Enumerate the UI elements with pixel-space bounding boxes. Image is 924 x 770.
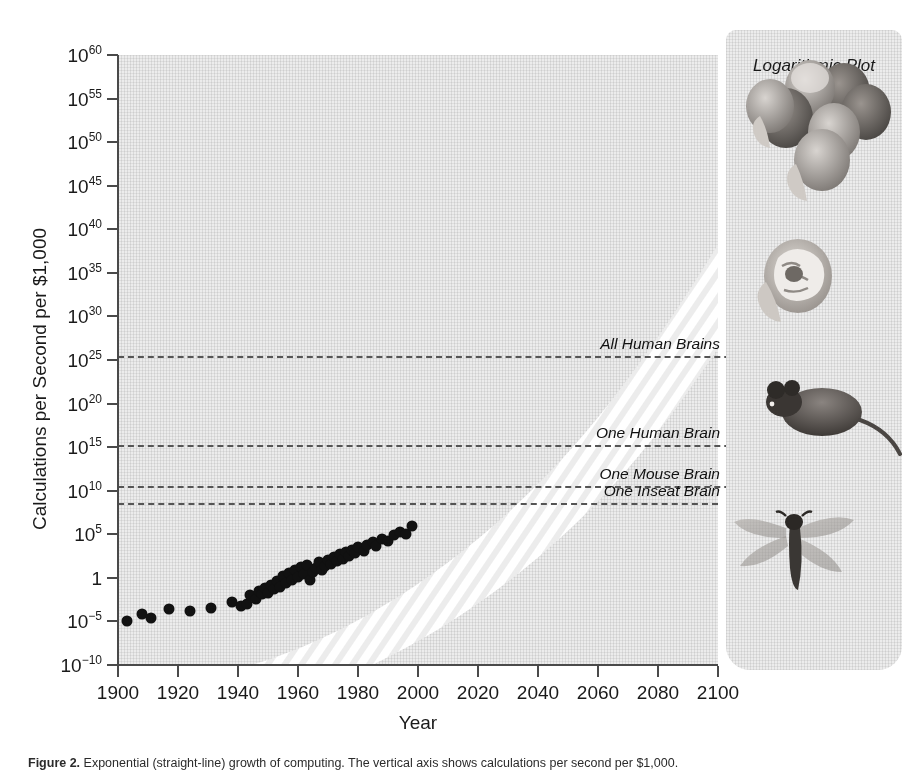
y-axis-ticks: 1060105510501045104010351030102510201015…	[0, 0, 118, 770]
threshold-line-one-human-brain	[118, 445, 770, 447]
human-heads-illustration	[746, 60, 891, 201]
y-axis-tick	[107, 446, 118, 448]
y-axis-tick	[107, 359, 118, 361]
threshold-label-all-human-brains: All Human Brains	[420, 335, 720, 353]
y-axis-tick	[107, 315, 118, 317]
y-axis-tick-label: 1	[91, 568, 102, 587]
figure-caption-label: Figure 2.	[28, 756, 80, 770]
y-axis-tick	[107, 577, 118, 579]
trend-band	[118, 55, 718, 665]
y-axis-tick-label: 1050	[68, 133, 103, 152]
y-axis-tick	[107, 185, 118, 187]
y-axis-tick-label: 105	[74, 525, 102, 544]
y-axis-tick	[107, 228, 118, 230]
y-axis-tick-label: 1020	[68, 394, 103, 413]
figure-caption-text: Exponential (straight-line) growth of co…	[84, 756, 679, 770]
x-axis-tick	[657, 666, 659, 677]
threshold-line-all-human-brains	[118, 356, 770, 358]
y-axis-tick-label: 1015	[68, 438, 103, 457]
x-axis-tick-label: 2060	[577, 682, 619, 704]
plot-area	[118, 55, 718, 665]
y-axis-tick-label: 1035	[68, 263, 103, 282]
y-axis-tick-label: 1045	[68, 176, 103, 195]
y-axis-tick-label: 10−5	[67, 612, 102, 631]
y-axis-tick-label: 1030	[68, 307, 103, 326]
x-axis-tick-label: 1980	[337, 682, 379, 704]
x-axis-tick-label: 2080	[637, 682, 679, 704]
x-axis-tick-label: 2020	[457, 682, 499, 704]
x-axis-tick-label: 2040	[517, 682, 559, 704]
mouse-illustration	[766, 380, 900, 454]
x-axis-title: Year	[0, 712, 836, 734]
dragonfly-illustration	[734, 512, 854, 591]
x-axis-tick-label: 2000	[397, 682, 439, 704]
x-axis-tick	[417, 666, 419, 677]
illustration-panel: Logarithmic Plot	[726, 30, 902, 670]
x-axis-tick	[117, 666, 119, 677]
y-axis-tick	[107, 272, 118, 274]
y-axis-tick	[107, 54, 118, 56]
x-axis-tick-label: 1900	[97, 682, 139, 704]
x-axis-tick-label: 1920	[157, 682, 199, 704]
y-axis-tick-label: 1060	[68, 46, 103, 65]
x-axis-tick	[477, 666, 479, 677]
y-axis-title: Calculations per Second per $1,000	[29, 129, 51, 629]
threshold-label-one-insect-brain: One Inseat Brain	[420, 482, 720, 500]
x-axis-tick-label: 1940	[217, 682, 259, 704]
x-axis-tick	[597, 666, 599, 677]
y-axis-tick-label: 10−10	[61, 656, 103, 675]
illustration-group	[726, 30, 902, 670]
x-axis-tick	[717, 666, 719, 677]
x-axis-tick	[297, 666, 299, 677]
y-axis-tick	[107, 490, 118, 492]
x-axis-tick-label: 1960	[277, 682, 319, 704]
y-axis-tick-label: 1025	[68, 351, 103, 370]
figure-container: All Human Brains One Human Brain One Mou…	[0, 0, 924, 770]
x-axis-tick	[357, 666, 359, 677]
human-brain-illustration	[758, 239, 832, 322]
figure-caption: Figure 2. Exponential (straight-line) gr…	[28, 756, 898, 770]
y-axis-tick	[107, 98, 118, 100]
x-axis-tick-label: 2100	[697, 682, 739, 704]
y-axis-tick	[107, 620, 118, 622]
y-axis-tick	[107, 533, 118, 535]
x-axis-tick	[537, 666, 539, 677]
y-axis-tick-label: 1055	[68, 89, 103, 108]
threshold-label-one-human-brain: One Human Brain	[420, 424, 720, 442]
x-axis-tick	[177, 666, 179, 677]
threshold-line-one-insect-brain	[118, 503, 718, 505]
threshold-label-one-mouse-brain: One Mouse Brain	[420, 465, 720, 483]
y-axis-tick-label: 1040	[68, 220, 103, 239]
y-axis-tick	[107, 403, 118, 405]
x-axis-tick	[237, 666, 239, 677]
y-axis-tick-label: 1010	[68, 481, 103, 500]
y-axis-tick	[107, 141, 118, 143]
